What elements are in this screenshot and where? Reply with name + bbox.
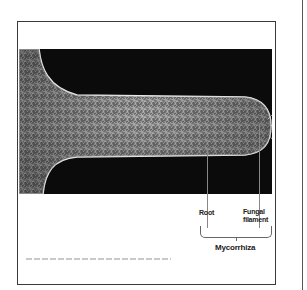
mycorrhiza-bracket-tick	[236, 237, 237, 241]
fungal-filament-label-line2: filament	[243, 216, 268, 224]
root-micrograph-illustration	[19, 49, 272, 194]
copyright-line	[26, 258, 171, 260]
mycorrhiza-label: Mycorrhiza	[215, 244, 255, 252]
root-label: Root	[199, 209, 214, 217]
fungal-filament-label-line1: Fungal	[243, 208, 265, 216]
figure-frame: Root Fungal filament Mycorrhiza	[17, 21, 276, 285]
micrograph-image	[19, 49, 272, 194]
page-edge-divider	[302, 0, 303, 290]
